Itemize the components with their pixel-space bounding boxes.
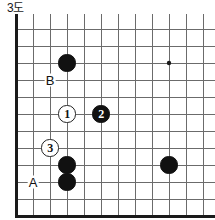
go-board[interactable]: 123 BA: [0, 14, 215, 220]
stone-black[interactable]: [160, 156, 177, 173]
point-marker-b[interactable]: B: [45, 74, 56, 87]
stone-black[interactable]: [58, 173, 75, 190]
stone-move-2[interactable]: 2: [92, 105, 109, 122]
point-marker-a[interactable]: A: [28, 176, 39, 189]
stone-move-number: 3: [42, 140, 57, 155]
stone-move-3[interactable]: 3: [41, 139, 58, 156]
stone-move-number: 1: [59, 106, 74, 121]
stone-move-number: 2: [93, 106, 108, 121]
stone-black[interactable]: [58, 156, 75, 173]
stone-move-1[interactable]: 1: [58, 105, 75, 122]
stone-black[interactable]: [58, 54, 75, 71]
go-diagram-figure: 3도 123 BA: [0, 0, 215, 220]
